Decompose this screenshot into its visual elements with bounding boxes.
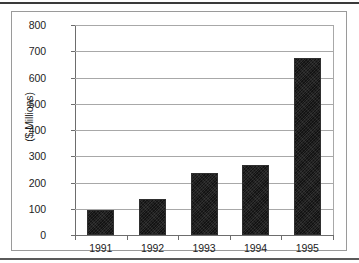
plot-right-edge [333,25,334,236]
y-tick-label-200: 200 [0,177,46,189]
x-axis-line [75,235,334,236]
page-top-rule [0,2,359,4]
y-tick-label-100: 100 [0,203,46,215]
y-tick-label-300: 300 [0,150,46,162]
x-tick-label-1995: 1995 [281,242,333,254]
y-tick-mark-300 [71,156,75,157]
x-tick-label-1994: 1994 [230,242,282,254]
bar-1995 [294,58,321,235]
x-tick-mark-2 [178,236,179,240]
y-tick-mark-500 [71,104,75,105]
x-tick-label-1992: 1992 [126,242,178,254]
y-tick-mark-800 [71,25,75,26]
x-tick-mark-1 [127,236,128,240]
y-tick-mark-700 [71,51,75,52]
x-tick-mark-4 [281,236,282,240]
gridline-700 [75,51,333,52]
y-tick-mark-100 [71,209,75,210]
y-tick-label-700: 700 [0,45,46,57]
gridline-800 [75,25,333,26]
y-tick-label-500: 500 [0,98,46,110]
y-tick-label-0: 0 [0,229,46,241]
y-tick-label-400: 400 [0,124,46,136]
bar-1992 [139,199,166,235]
y-tick-mark-600 [71,78,75,79]
y-tick-label-800: 800 [0,19,46,31]
y-tick-mark-200 [71,183,75,184]
page-bottom-rule [0,258,359,260]
x-tick-mark-5 [333,236,334,240]
y-tick-mark-400 [71,130,75,131]
x-tick-label-1991: 1991 [75,242,127,254]
y-tick-label-600: 600 [0,72,46,84]
bar-1993 [191,173,218,235]
x-tick-mark-3 [230,236,231,240]
x-tick-label-1993: 1993 [178,242,230,254]
chart-frame: ($ Millions) 8007006005004003002001000 1… [11,11,347,251]
plot-area [75,25,333,235]
x-tick-mark-0 [75,236,76,240]
bar-1991 [87,210,114,235]
bar-1994 [242,165,269,235]
